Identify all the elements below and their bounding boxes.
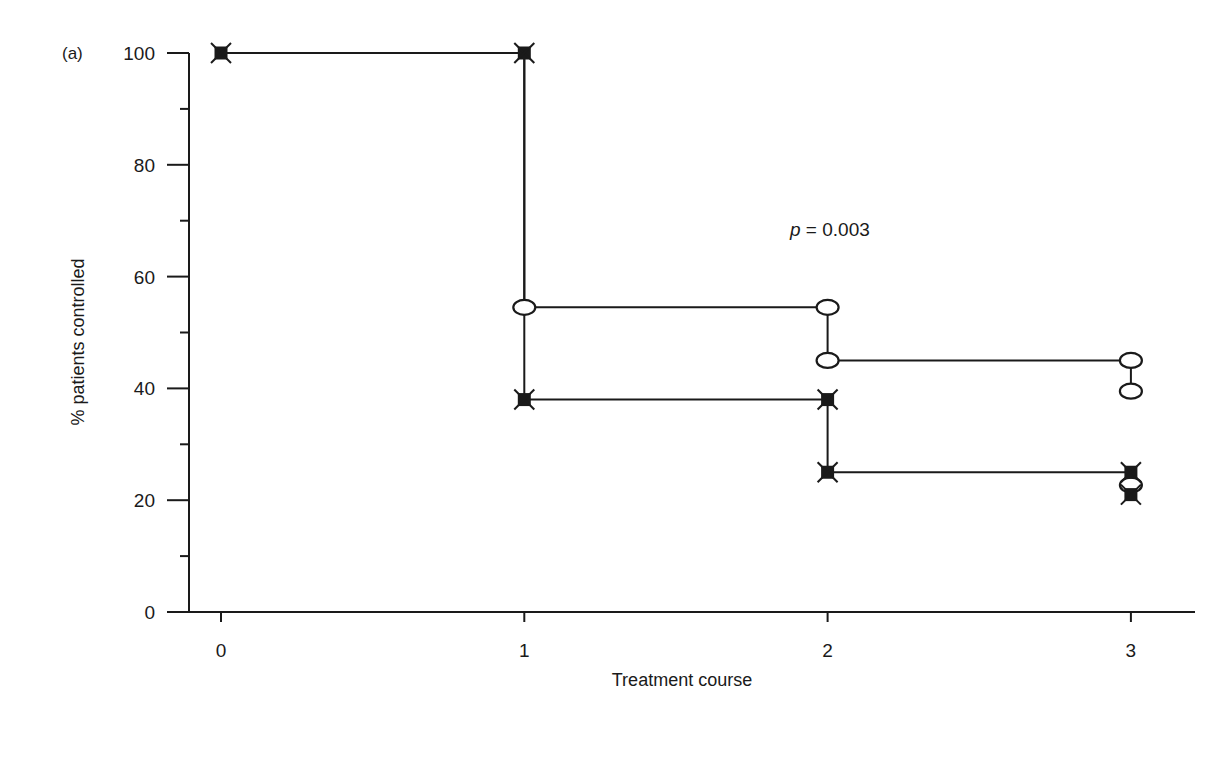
y-tick-label: 80 [134,155,155,176]
y-axis-title: % patients controlled [68,258,88,425]
open-circle-marker [817,300,839,315]
x-tick-label: 1 [519,640,530,661]
survival-chart: 0204060801000123 (a) p = 0.003 Treatment… [0,0,1232,760]
y-tick-label: 60 [134,267,155,288]
axes: 0204060801000123 [123,43,1195,661]
y-tick-label: 100 [123,43,155,64]
open-circle-marker [1120,384,1142,399]
y-tick-label: 0 [144,602,155,623]
p-value-text: = 0.003 [801,219,870,240]
open-circle-marker [1120,353,1142,368]
x-axis-title: Treatment course [612,670,752,690]
y-tick-label: 20 [134,490,155,511]
p-value-annotation: p = 0.003 [789,219,870,240]
x-tick-label: 3 [1126,640,1137,661]
p-symbol: p [789,219,801,240]
series-layer [211,43,1142,505]
open-circle-marker [817,353,839,368]
y-tick-label: 40 [134,378,155,399]
series-filled-squares [221,53,1131,495]
x-tick-label: 0 [216,640,227,661]
step-line [221,53,1131,391]
panel-label: (a) [62,44,83,63]
step-line [221,53,1131,495]
series-open-circles [221,53,1131,391]
open-circle-marker [513,300,535,315]
axis-lines [189,53,1195,612]
x-tick-label: 2 [822,640,833,661]
